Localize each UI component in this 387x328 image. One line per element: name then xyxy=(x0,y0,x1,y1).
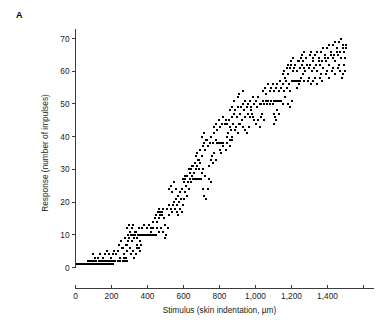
data-point xyxy=(287,103,289,105)
data-point xyxy=(110,257,112,259)
data-point xyxy=(181,211,183,213)
data-point xyxy=(126,250,128,252)
data-point xyxy=(126,244,128,246)
data-point xyxy=(332,67,334,69)
data-point xyxy=(282,73,284,75)
data-point xyxy=(308,77,310,79)
data-point xyxy=(172,204,174,206)
data-point xyxy=(108,253,110,255)
data-point xyxy=(316,70,318,72)
data-point xyxy=(191,175,193,177)
data-point xyxy=(120,240,122,242)
data-point xyxy=(247,113,249,115)
data-point xyxy=(227,132,229,134)
data-point xyxy=(265,93,267,95)
data-point xyxy=(205,139,207,141)
data-point xyxy=(334,73,336,75)
data-point xyxy=(152,227,154,229)
data-point xyxy=(287,73,289,75)
x-axis-tick-label: 0 xyxy=(73,291,78,301)
data-point xyxy=(207,145,209,147)
data-point xyxy=(325,73,327,75)
data-point xyxy=(242,103,244,105)
data-point xyxy=(190,168,192,170)
data-point xyxy=(338,41,340,43)
data-point xyxy=(253,119,255,121)
data-point xyxy=(306,64,308,66)
data-point xyxy=(199,162,201,164)
data-point xyxy=(342,44,344,46)
data-point xyxy=(100,260,102,262)
data-point xyxy=(307,80,309,82)
data-point xyxy=(226,142,228,144)
data-point xyxy=(299,80,301,82)
data-point xyxy=(304,70,306,72)
data-point xyxy=(126,260,128,262)
data-point xyxy=(303,80,305,82)
data-point xyxy=(318,57,320,59)
data-point xyxy=(123,253,125,255)
data-point xyxy=(302,60,304,62)
data-point xyxy=(102,257,104,259)
data-point xyxy=(298,83,300,85)
data-point xyxy=(229,145,231,147)
data-point xyxy=(282,103,284,105)
y-axis-tick-label: 10 xyxy=(60,230,70,240)
data-point xyxy=(139,240,141,242)
data-point xyxy=(181,188,183,190)
data-point xyxy=(126,227,128,229)
data-point xyxy=(205,198,207,200)
data-point xyxy=(240,106,242,108)
data-point xyxy=(136,247,138,249)
data-point xyxy=(328,64,330,66)
y-axis-tick-label: 60 xyxy=(60,66,70,76)
data-point xyxy=(143,224,145,226)
data-point xyxy=(276,109,278,111)
data-point xyxy=(238,93,240,95)
data-point xyxy=(249,116,251,118)
data-point xyxy=(92,253,94,255)
data-point xyxy=(189,172,191,174)
data-point xyxy=(269,90,271,92)
data-point xyxy=(278,90,280,92)
data-point xyxy=(134,231,136,233)
data-point xyxy=(253,103,255,105)
data-point xyxy=(130,234,132,236)
data-point xyxy=(293,67,295,69)
data-point xyxy=(168,214,170,216)
data-point xyxy=(337,67,339,69)
data-point xyxy=(300,57,302,59)
data-point xyxy=(278,113,280,115)
data-point xyxy=(321,80,323,82)
x-axis-tick-label: 400 xyxy=(141,291,155,301)
data-point xyxy=(192,165,194,167)
data-point xyxy=(114,260,116,262)
data-point xyxy=(250,109,252,111)
data-point xyxy=(124,260,126,262)
data-point xyxy=(222,116,224,118)
data-point xyxy=(292,70,294,72)
data-point xyxy=(184,178,186,180)
data-point xyxy=(339,51,341,53)
x-axis-title: Stimulus (skin indentation, µm) xyxy=(163,305,277,315)
data-point xyxy=(193,172,195,174)
data-point xyxy=(164,224,166,226)
data-point xyxy=(280,87,282,89)
figure-panel-a: A 010203040506070 02004006008001,0001,20… xyxy=(0,0,387,328)
data-point xyxy=(310,51,312,53)
data-point xyxy=(292,57,294,59)
data-point xyxy=(279,80,281,82)
data-point xyxy=(222,142,224,144)
data-point xyxy=(113,250,115,252)
data-point xyxy=(286,67,288,69)
data-point xyxy=(210,136,212,138)
data-point xyxy=(156,221,158,223)
data-point xyxy=(150,231,152,233)
data-point xyxy=(119,260,121,262)
data-point xyxy=(260,103,262,105)
data-point xyxy=(177,195,179,197)
data-point xyxy=(283,70,285,72)
data-point xyxy=(212,142,214,144)
data-point xyxy=(246,106,248,108)
data-point xyxy=(259,126,261,128)
